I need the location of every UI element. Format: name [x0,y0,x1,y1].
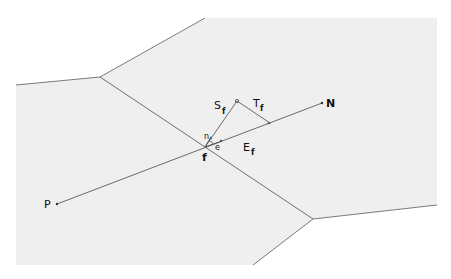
point-p [56,203,58,205]
label-s-subscript: f [222,107,226,116]
mesh-diagram: P N f S f T f E f n e [0,0,451,279]
label-e-vector-subscript: f [251,148,255,157]
diagram-canvas: P N f S f T f E f n e [0,0,451,279]
label-e-vector: E [243,141,250,154]
label-s: S [214,99,221,112]
label-f: f [202,151,207,164]
label-n-unit: n [204,132,209,141]
label-t-subscript: f [260,104,264,113]
cell-region [16,18,437,265]
label-e-unit: e [215,143,220,152]
point-n [321,102,323,104]
label-p: P [44,198,51,211]
label-t: T [252,97,260,110]
label-n: N [326,97,335,110]
